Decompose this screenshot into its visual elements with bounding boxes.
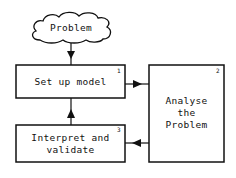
- node-3-label-line: validate: [16, 144, 125, 156]
- problem-label: Problem: [30, 22, 112, 34]
- node-2-label: Analyse the Problem: [149, 95, 224, 131]
- node-2-label-line: Problem: [149, 119, 224, 131]
- node-2-label-line: the: [149, 107, 224, 119]
- node-3-label: Interpret and validate: [16, 132, 125, 156]
- arrow-1-to-2: [125, 80, 149, 88]
- node-1-number: 1: [117, 68, 121, 74]
- node-2-number: 2: [216, 68, 220, 74]
- arrow-problem-to-1: [67, 43, 75, 65]
- node-3-label-line: Interpret and: [16, 132, 125, 144]
- arrow-3-to-1: [67, 98, 75, 125]
- arrow-2-to-3: [125, 139, 149, 147]
- node-1-label: Set up model: [16, 76, 125, 88]
- node-2-label-line: Analyse: [149, 95, 224, 107]
